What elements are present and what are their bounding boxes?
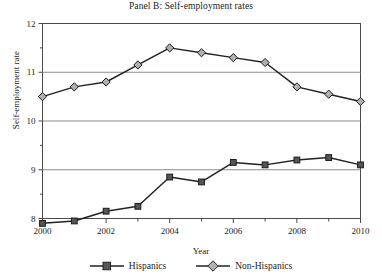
data-point-marker xyxy=(134,61,142,69)
y-tick-label: 12 xyxy=(27,19,36,29)
y-tick-label: 11 xyxy=(27,67,36,77)
x-axis-title: Year xyxy=(42,246,360,256)
data-point-marker xyxy=(230,160,236,166)
data-point-marker xyxy=(326,155,332,161)
chart-figure: Panel B: Self-employment rates 891011122… xyxy=(0,0,382,279)
data-point-marker xyxy=(358,162,364,168)
data-point-marker xyxy=(70,83,78,91)
data-point-marker xyxy=(199,179,205,185)
x-tick-label: 2002 xyxy=(97,226,115,236)
data-point-marker xyxy=(325,90,333,98)
data-point-marker xyxy=(229,54,237,62)
legend-item-hispanics: Hispanics xyxy=(90,260,166,272)
y-tick-label: 10 xyxy=(27,116,37,126)
data-point-marker xyxy=(102,78,110,86)
data-point-marker xyxy=(167,174,173,180)
data-point-marker xyxy=(166,44,174,52)
data-point-marker xyxy=(103,208,109,214)
data-point-marker xyxy=(294,157,300,163)
y-axis-title: Self-employment rate xyxy=(11,30,21,150)
legend-label-non-hispanics: Non-Hispanics xyxy=(235,261,292,271)
data-point-marker xyxy=(40,220,46,226)
plot-area: 89101112200020022004200620082010 xyxy=(0,0,382,279)
data-point-marker xyxy=(356,97,364,105)
series-hispanics xyxy=(40,155,364,227)
legend-label-hispanics: Hispanics xyxy=(129,261,166,271)
y-tick-label: 8 xyxy=(31,214,36,224)
series-non-hispanics xyxy=(38,44,364,106)
data-point-marker xyxy=(135,203,141,209)
x-tick-label: 2000 xyxy=(34,226,53,236)
y-tick-label: 9 xyxy=(31,165,36,175)
data-point-marker xyxy=(262,162,268,168)
x-tick-label: 2008 xyxy=(288,226,307,236)
x-tick-label: 2004 xyxy=(161,226,180,236)
x-tick-label: 2006 xyxy=(224,226,243,236)
legend-swatch-square-icon xyxy=(90,260,124,272)
chart-legend: Hispanics Non-Hispanics xyxy=(0,260,382,272)
legend-swatch-diamond-icon xyxy=(196,260,230,272)
data-point-marker xyxy=(71,218,77,224)
data-point-marker xyxy=(197,49,205,57)
data-point-marker xyxy=(38,93,46,101)
x-tick-label: 2010 xyxy=(352,226,371,236)
legend-item-non-hispanics: Non-Hispanics xyxy=(196,260,292,272)
